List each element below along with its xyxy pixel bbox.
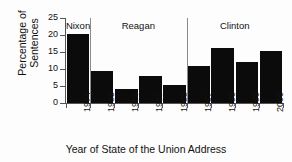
y-axis-tick-label: 10 [28, 64, 58, 73]
x-axis-tick [235, 104, 236, 108]
y-axis-tick [60, 86, 65, 87]
x-axis-tick [114, 104, 115, 108]
x-axis-tick [138, 104, 139, 108]
y-axis-tick-label: 15 [28, 47, 58, 56]
x-axis-tick [90, 104, 91, 108]
y-axis-tick [60, 18, 65, 19]
y-axis-tick [60, 69, 65, 70]
x-axis-title: Year of State of the Union Address [0, 143, 292, 155]
x-axis-tick [162, 104, 163, 108]
x-axis-tick [259, 104, 260, 108]
bar-chart-figure: Percentage of Sentences 0510152025 19741… [0, 0, 292, 162]
group-label-reagan: Reagan [98, 20, 178, 31]
y-axis-tick-label: 5 [28, 81, 58, 90]
y-axis-tick-label: 20 [28, 30, 58, 39]
x-axis-tick [66, 104, 67, 108]
group-label-clinton: Clinton [195, 20, 275, 31]
group-separator [187, 18, 188, 103]
x-axis-tick [211, 104, 212, 108]
y-axis-tick [60, 103, 65, 104]
group-separator [90, 18, 91, 103]
x-axis-tick [283, 104, 284, 108]
y-axis-tick-label: 0 [28, 98, 58, 107]
y-axis-tick [60, 52, 65, 53]
y-axis-tick [60, 35, 65, 36]
x-axis-tick [187, 104, 188, 108]
y-axis-title-line1: Percentage of [16, 10, 29, 75]
